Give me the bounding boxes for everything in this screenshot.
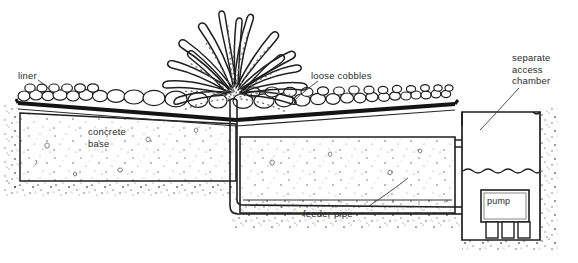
pump-supports [486,222,530,238]
reservoir [240,137,455,213]
cross-section-artwork [0,0,578,263]
label-pump: pump [487,196,510,208]
label-liner: liner [18,70,37,82]
access-chamber [462,112,540,240]
label-loose-cobbles: loose cobbles [311,70,372,82]
diagram-canvas: liner loose cobbles separate access cham… [0,0,578,263]
label-concrete-base: concrete base [88,126,126,149]
label-feeder-pipe: feeder pipe [303,208,353,220]
label-separate-access-chamber: separate access chamber [512,52,551,87]
